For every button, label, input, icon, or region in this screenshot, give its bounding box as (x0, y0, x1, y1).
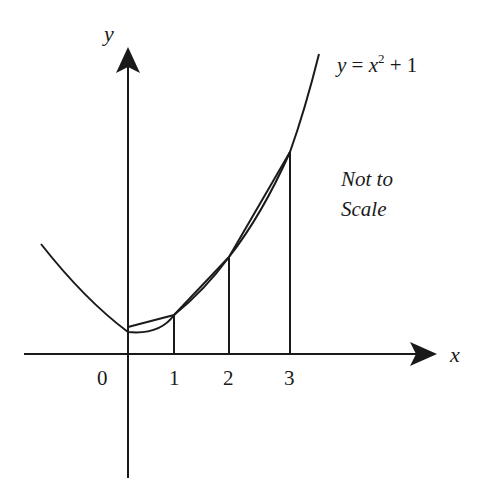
function-diagram: y x 0 1 2 3 y = x2 + 1 Not to Scale (0, 0, 487, 503)
parabola-curve (41, 54, 319, 332)
x-tick-1: 1 (169, 366, 180, 390)
x-axis-label: x (449, 342, 460, 367)
function-label: y = x2 + 1 (335, 51, 417, 77)
annotation-line-2: Scale (341, 197, 386, 221)
origin-label: 0 (97, 366, 108, 390)
chord-2-3 (229, 152, 290, 257)
function-label-rest: + 1 (385, 53, 418, 77)
x-tick-3: 3 (284, 366, 295, 390)
function-label-eq: = (346, 53, 368, 77)
y-axis (116, 47, 140, 478)
function-label-y: y (335, 53, 347, 77)
annotation-line-1: Not to (340, 167, 393, 191)
x-axis (24, 342, 437, 366)
y-axis-label: y (102, 21, 114, 46)
chords (128, 152, 290, 327)
chord-0-1 (128, 315, 174, 327)
x-tick-2: 2 (223, 366, 234, 390)
chord-1-2 (174, 257, 229, 315)
